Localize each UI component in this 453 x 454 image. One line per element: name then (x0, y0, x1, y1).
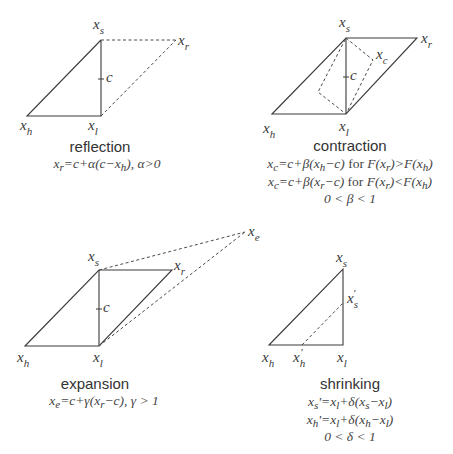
panel-contraction: xs xr xc xh xl c contraction xc=c+β(xh−c… (262, 14, 433, 206)
title-shrinking: shrinking (320, 375, 380, 392)
equation-reflection: xr=c+α(c−xh), α>0 (53, 156, 161, 173)
title-expansion: expansion (61, 375, 129, 392)
label-xs: xs (92, 16, 104, 36)
equation-shrinking-2: xh'=xl+δ(xh−xl) (306, 412, 394, 429)
label-xs-prime: xs' (346, 287, 358, 310)
label-xh: xh (261, 349, 275, 369)
label-xr: xr (420, 30, 433, 50)
label-xs: xs (335, 249, 347, 269)
label-xr: xr (173, 257, 186, 277)
label-xe: xe (247, 223, 260, 243)
label-c: c (103, 299, 110, 315)
title-contraction: contraction (313, 137, 386, 154)
label-xh: xh (16, 349, 30, 369)
equation-shrinking-1: xs'=xl+δ(xs−xl) (307, 394, 393, 411)
label-xl: xl (338, 118, 349, 138)
label-xs: xs (338, 14, 350, 34)
label-c: c (350, 67, 357, 83)
simplex-triangle (27, 40, 101, 116)
label-xc: xc (375, 46, 388, 66)
equation-contraction-range: 0 < β < 1 (324, 191, 376, 206)
title-reflection: reflection (70, 138, 131, 155)
equation-contraction-1: xc=c+β(xh−c) for F(xr)>F(xh) (266, 156, 433, 173)
label-xl: xl (87, 117, 98, 137)
panel-expansion: xs xr xe xh xl c expansion xe=c+γ(xr−c),… (16, 223, 260, 410)
expanded-edge-diagonal (99, 232, 245, 346)
equation-expansion: xe=c+γ(xr−c), γ > 1 (48, 393, 158, 410)
label-xh: xh (262, 120, 276, 140)
label-c: c (106, 69, 113, 85)
label-xr: xr (177, 32, 190, 52)
nelder-mead-diagram: xs xr xh xl c reflection xr=c+α(c−xh), α… (0, 0, 453, 454)
label-xh-prime: xh' (292, 346, 306, 369)
label-xs: xs (87, 248, 99, 268)
label-xh: xh (19, 117, 33, 137)
label-xl: xl (336, 349, 347, 369)
panel-reflection: xs xr xh xl c reflection xr=c+α(c−xh), α… (19, 16, 190, 173)
simplex-triangle (269, 269, 343, 345)
expanded-edge-top (99, 232, 245, 270)
reflected-parallelogram (272, 38, 417, 114)
equation-shrinking-range: 0 < δ < 1 (324, 429, 376, 444)
label-xl: xl (92, 349, 103, 369)
panel-shrinking: xs xs' xh xh' xl shrinking xs'=xl+δ(xs−x… (261, 249, 394, 444)
equation-contraction-2: xc=c+β(xr−c) for F(xr)<F(xh) (267, 174, 433, 191)
shrunk-edge (302, 303, 343, 345)
